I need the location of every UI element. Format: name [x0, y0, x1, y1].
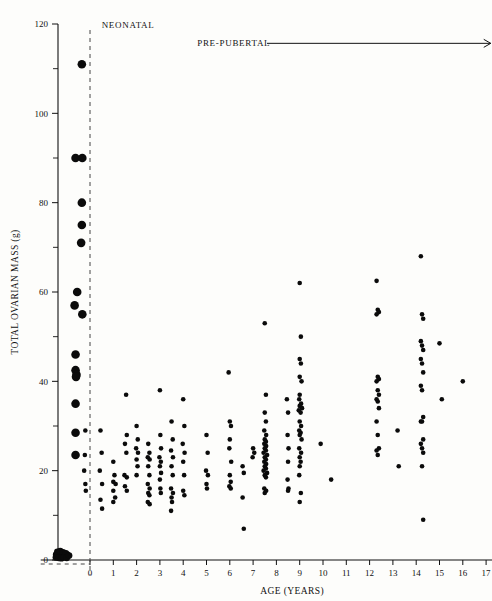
- data-point-pre-pubertal: [98, 428, 103, 433]
- data-point-pre-pubertal: [419, 254, 424, 259]
- data-point-pre-pubertal: [297, 357, 302, 362]
- data-point-pre-pubertal: [98, 497, 103, 502]
- data-point-pre-pubertal: [99, 451, 104, 456]
- data-point-pre-pubertal: [421, 348, 426, 353]
- data-point-pre-pubertal: [83, 482, 88, 487]
- data-point-foetal: [78, 154, 87, 163]
- y-tick-label: 40: [39, 377, 49, 387]
- data-point-pre-pubertal: [159, 491, 164, 496]
- data-point-pre-pubertal: [251, 446, 256, 451]
- data-point-foetal: [78, 310, 87, 319]
- data-point-pre-pubertal: [286, 488, 291, 493]
- data-point-pre-pubertal: [375, 388, 380, 393]
- data-point-pre-pubertal: [421, 317, 426, 322]
- x-tick-label: 3: [158, 568, 163, 578]
- data-point-pre-pubertal: [262, 428, 267, 433]
- x-tick-label: 9: [297, 568, 302, 578]
- data-point-pre-pubertal: [147, 451, 152, 456]
- data-point-pre-pubertal: [285, 477, 290, 482]
- data-point-pre-pubertal: [421, 437, 426, 442]
- data-point-pre-pubertal: [111, 488, 116, 493]
- data-point-foetal: [73, 288, 82, 297]
- data-point-pre-pubertal: [297, 464, 302, 469]
- x-tick-label: 10: [319, 568, 329, 578]
- x-tick-label: 5: [204, 568, 209, 578]
- data-point-foetal: [72, 373, 81, 382]
- data-point-pre-pubertal: [374, 312, 379, 317]
- data-point-pre-pubertal: [298, 459, 303, 464]
- data-point-pre-pubertal: [204, 433, 209, 438]
- data-point-pre-pubertal: [250, 455, 255, 460]
- x-tick-label: 1: [111, 568, 116, 578]
- data-point-pre-pubertal: [180, 442, 185, 447]
- data-point-foetal: [70, 301, 79, 310]
- data-point-pre-pubertal: [297, 455, 302, 460]
- data-point-pre-pubertal: [181, 397, 186, 402]
- data-point-pre-pubertal: [419, 384, 424, 389]
- data-point-pre-pubertal: [182, 473, 187, 478]
- plot-canvas: 0204060801001200123456789101112131415161…: [0, 0, 492, 601]
- data-point-pre-pubertal: [182, 493, 187, 498]
- data-point-pre-pubertal: [318, 442, 323, 447]
- data-point-pre-pubertal: [125, 433, 130, 438]
- data-point-pre-pubertal: [420, 446, 425, 451]
- x-tick-label: 2: [134, 568, 139, 578]
- data-point-pre-pubertal: [299, 334, 304, 339]
- data-point-pre-pubertal: [206, 473, 211, 478]
- data-point-pre-pubertal: [297, 392, 302, 397]
- data-point-pre-pubertal: [396, 464, 401, 469]
- data-point-pre-pubertal: [297, 473, 302, 478]
- data-point-pre-pubertal: [262, 491, 267, 496]
- data-point-pre-pubertal: [182, 451, 187, 456]
- data-point-pre-pubertal: [147, 502, 152, 507]
- data-point-pre-pubertal: [170, 437, 175, 442]
- y-tick-label: 60: [39, 287, 49, 297]
- data-point-pre-pubertal: [252, 451, 257, 456]
- data-point-pre-pubertal: [145, 482, 150, 487]
- data-point-pre-pubertal: [159, 471, 164, 476]
- x-tick-label: 14: [412, 568, 422, 578]
- data-point-pre-pubertal: [297, 433, 302, 438]
- data-point-pre-pubertal: [420, 419, 425, 424]
- data-point-pre-pubertal: [299, 437, 304, 442]
- data-point-pre-pubertal: [377, 392, 382, 397]
- x-axis-label: AGE (YEARS): [260, 586, 324, 597]
- data-point-pre-pubertal: [169, 509, 174, 514]
- data-point-pre-pubertal: [123, 484, 128, 489]
- data-point-pre-pubertal: [264, 475, 269, 480]
- data-point-pre-pubertal: [329, 477, 334, 482]
- data-point-pre-pubertal: [421, 518, 426, 523]
- data-point-pre-pubertal: [297, 446, 302, 451]
- scatter-plot-figure: 0204060801001200123456789101112131415161…: [0, 0, 492, 601]
- data-point-pre-pubertal: [374, 379, 379, 384]
- data-point-pre-pubertal: [262, 321, 267, 326]
- data-points-group: [53, 60, 466, 562]
- data-point-pre-pubertal: [374, 279, 379, 284]
- x-tick-label: 11: [342, 568, 351, 578]
- data-point-pre-pubertal: [182, 424, 187, 429]
- data-point-pre-pubertal: [297, 375, 302, 380]
- data-point-pre-pubertal: [228, 437, 233, 442]
- data-point-pre-pubertal: [147, 486, 152, 491]
- y-tick-label: 120: [35, 19, 49, 29]
- x-tick-label: 7: [251, 568, 256, 578]
- data-point-pre-pubertal: [228, 480, 233, 485]
- y-tick-label: 100: [35, 109, 49, 119]
- data-point-pre-pubertal: [146, 464, 151, 469]
- data-point-pre-pubertal: [299, 491, 304, 496]
- data-point-pre-pubertal: [158, 433, 163, 438]
- data-point-pre-pubertal: [419, 339, 424, 344]
- data-point-pre-pubertal: [111, 500, 116, 505]
- data-point-pre-pubertal: [147, 473, 152, 478]
- data-point-pre-pubertal: [169, 419, 174, 424]
- data-point-pre-pubertal: [205, 486, 210, 491]
- x-tick-label: 13: [388, 568, 398, 578]
- data-point-pre-pubertal: [158, 464, 163, 469]
- data-point-pre-pubertal: [229, 459, 234, 464]
- data-point-pre-pubertal: [262, 410, 267, 415]
- data-point-pre-pubertal: [159, 459, 164, 464]
- data-point-pre-pubertal: [82, 468, 87, 473]
- data-point-pre-pubertal: [169, 486, 174, 491]
- data-point-foetal: [78, 198, 87, 207]
- data-point-pre-pubertal: [299, 361, 304, 366]
